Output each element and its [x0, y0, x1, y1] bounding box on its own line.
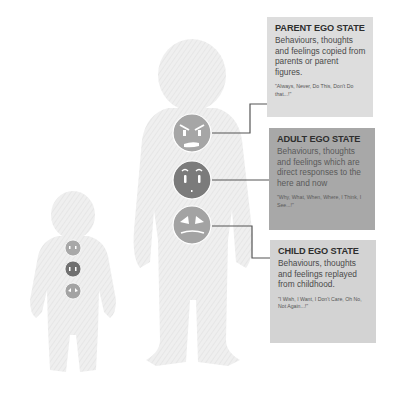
angry-face-icon [173, 114, 211, 152]
child-description: Behaviours, thoughts and feelings replay… [278, 258, 370, 290]
ego-state-diagram: PARENT EGO STATE Behaviours, thoughts an… [0, 0, 399, 393]
parent-quote: "Always, Never, Do This, Don't Do that..… [275, 83, 367, 98]
child-title: CHILD EGO STATE [278, 246, 370, 257]
small-adult-face-icon [65, 261, 81, 277]
adult-quote: "Why, What, When, Where, I Think, I See.… [277, 194, 369, 209]
small-parent-face-icon [65, 240, 81, 256]
parent-title: PARENT EGO STATE [275, 23, 367, 34]
adult-ego-state-box: ADULT EGO STATE Behaviours, thoughts and… [269, 128, 375, 230]
child-quote: "I Wish, I Want, I Don't Care, Oh No, No… [278, 296, 370, 311]
adult-description: Behaviours, thoughts and feelings which … [277, 146, 369, 188]
parent-description: Behaviours, thoughts and feelings copied… [275, 35, 367, 77]
adult-title: ADULT EGO STATE [277, 134, 369, 145]
upset-face-icon [173, 206, 211, 244]
neutral-face-icon [173, 161, 211, 199]
adult-silhouette [134, 39, 253, 366]
child-silhouette [30, 191, 116, 372]
parent-ego-state-box: PARENT EGO STATE Behaviours, thoughts an… [267, 17, 373, 117]
small-child-face-icon [65, 283, 81, 299]
child-ego-state-box: CHILD EGO STATE Behaviours, thoughts and… [270, 240, 376, 343]
